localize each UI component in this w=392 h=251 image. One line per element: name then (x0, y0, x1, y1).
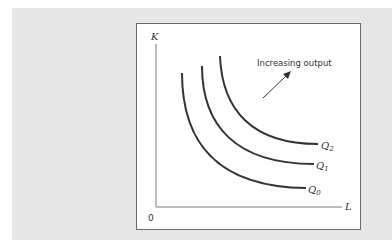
x-axis-label: L (344, 201, 352, 212)
isoquant-q0 (182, 73, 306, 188)
increasing-output-label: Increasing output (257, 58, 332, 68)
y-axis-label: K (150, 31, 159, 42)
q1-label: Q1 (316, 160, 329, 173)
q2-label: Q2 (321, 140, 334, 153)
isoquant-q2 (220, 56, 318, 144)
direction-arrow-icon (263, 75, 287, 98)
q0-label: Q0 (308, 184, 321, 197)
isoquant-diagram: K L 0 Q0 Q1 Q2 Increasing output (0, 0, 392, 251)
isoquant-q1 (202, 66, 314, 164)
origin-label: 0 (148, 213, 154, 223)
